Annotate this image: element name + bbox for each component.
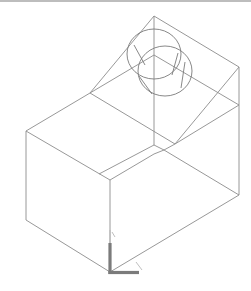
ucs-x-tick	[136, 262, 142, 270]
ucs-icon[interactable]	[108, 230, 142, 274]
wireframe-model[interactable]	[0, 0, 251, 291]
upper-sloped-block	[90, 16, 239, 195]
cylinder-boss	[127, 29, 192, 96]
cad-viewport[interactable]	[0, 0, 251, 291]
ucs-y-tick	[112, 232, 115, 237]
lower-block	[26, 93, 239, 272]
